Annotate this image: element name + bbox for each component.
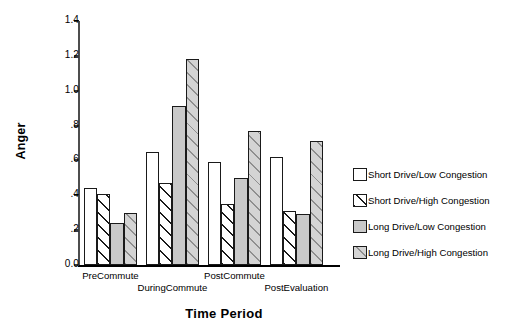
y-axis-tick-label-text: .6 [49,154,79,164]
bar [270,157,283,265]
y-axis-tick-label-text: .8 [49,120,79,130]
bar [159,183,172,265]
legend-label: Short Drive/High Congestion [368,195,490,206]
chart-legend: Short Drive/Low CongestionShort Drive/Hi… [353,166,518,270]
y-axis-tick-label-text: 1.4 [49,15,79,25]
x-axis-title: Time Period [0,306,520,321]
y-axis-tick-label-text: .4 [49,189,79,199]
y-axis-title-text: Anger [14,96,28,186]
y-axis-tick-label: .2 [40,224,79,234]
legend-swatch [353,194,367,207]
plot-area [80,21,340,265]
y-axis-tick-label-text: .2 [49,224,79,234]
bar [146,152,159,265]
bar [186,59,199,265]
legend-swatch [353,220,367,233]
bar [110,223,123,265]
x-axis-title-text: Time Period [185,306,262,321]
bar [97,194,110,265]
x-axis-category-label: PostCommute [174,270,294,281]
legend-label: Long Drive/Low Congestion [368,221,486,232]
y-axis-tick-label: .6 [40,154,79,164]
bar [124,213,137,265]
bar [234,178,247,265]
legend-item: Long Drive/High Congestion [353,244,518,260]
y-axis-tick-label-text: 1.0 [49,85,79,95]
legend-label: Short Drive/Low Congestion [368,169,487,180]
y-axis-tick-label-text: 0.0 [49,259,79,269]
bar [221,204,234,265]
y-axis-tick-label: 0.0 [40,259,79,269]
y-axis-tick-label: .8 [40,120,79,130]
legend-item: Short Drive/Low Congestion [353,166,518,182]
bar [208,162,221,265]
y-axis-tick-label: .4 [40,189,79,199]
bar [296,214,309,265]
x-axis-category-label: DuringCommute [112,282,232,293]
legend-item: Short Drive/High Congestion [353,192,518,208]
x-axis-category-label: PostEvaluation [236,282,356,293]
bar-chart-figure: Anger 0.0.2.4.6.81.01.21.4 PreCommuteDur… [0,0,520,332]
bar [310,141,323,265]
x-axis-category-label: PreCommute [50,270,170,281]
legend-swatch [353,246,367,259]
y-axis-tick-label: 1.4 [40,15,79,25]
y-axis-tick-label: 1.2 [40,50,79,60]
bar [84,188,97,265]
legend-item: Long Drive/Low Congestion [353,218,518,234]
legend-swatch [353,168,367,181]
bar [283,211,296,265]
legend-label: Long Drive/High Congestion [368,247,488,258]
y-axis-title: Anger [14,6,28,96]
y-axis-tick-label-text: 1.2 [49,50,79,60]
y-axis-tick-label: 1.0 [40,85,79,95]
bar [248,131,261,265]
x-axis-line [78,265,340,267]
bar [172,106,185,265]
